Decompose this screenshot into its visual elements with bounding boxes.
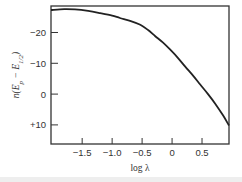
x-tick-label: −1.0 xyxy=(103,147,122,158)
x-tick-label: 0.5 xyxy=(195,147,208,158)
chart: −1.5−1.0−0.500.5 −20−100+10 log λ n(Ep −… xyxy=(0,0,242,182)
y-tick-label: −10 xyxy=(30,58,46,69)
x-tick-label: −1.5 xyxy=(73,147,92,158)
x-tick-label: 0 xyxy=(169,147,174,158)
series-line-curve xyxy=(51,9,229,125)
plot-frame xyxy=(51,6,229,144)
bottom-band xyxy=(0,177,242,182)
y-tick-label: −20 xyxy=(30,27,46,38)
y-axis-label: n(Ep − E1/2) xyxy=(11,52,25,98)
y-tick-label: +10 xyxy=(30,119,46,130)
y-tick-label: 0 xyxy=(41,89,46,100)
x-tick-label: −0.5 xyxy=(133,147,152,158)
x-axis-label: log λ xyxy=(130,163,150,173)
